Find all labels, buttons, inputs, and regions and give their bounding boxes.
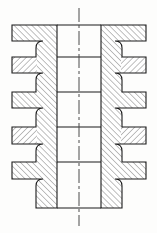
fin-1-right-hatch — [121, 25, 147, 41]
fin-2-left-hatch — [11, 57, 37, 73]
fin-5-left-hatch — [11, 162, 37, 179]
fin-4-left-hatch — [11, 127, 37, 144]
drawing-canvas — [0, 0, 157, 233]
fin-3-right-hatch — [121, 92, 147, 108]
fin-2-right-hatch — [121, 57, 147, 73]
fin-1-left-hatch — [11, 25, 37, 41]
fin-5-right-hatch — [121, 162, 147, 179]
fin-3-left-hatch — [11, 92, 37, 108]
fin-4-right-hatch — [121, 127, 147, 144]
technical-drawing-svg — [0, 0, 157, 233]
